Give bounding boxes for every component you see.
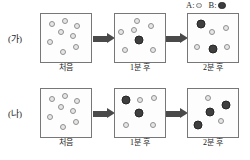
particle-a xyxy=(62,18,68,24)
particle-b xyxy=(197,19,206,28)
particle-a xyxy=(74,23,80,29)
stage-caption: 처음 xyxy=(40,139,92,148)
particle-a xyxy=(224,44,230,50)
particle-a xyxy=(150,47,156,53)
particle-b xyxy=(194,121,203,130)
particle-a xyxy=(62,93,68,99)
open-circle-light-icon xyxy=(196,3,202,9)
particle-a xyxy=(209,29,215,35)
stage-caption: 처음 xyxy=(40,64,92,73)
particle-a xyxy=(134,18,140,24)
stage-ga-t1: 1분 후 xyxy=(114,13,166,73)
particle-a xyxy=(123,122,129,128)
stage-na-t1: 1분 후 xyxy=(114,88,166,148)
particle-a xyxy=(137,97,143,103)
legend-entry-b: B: xyxy=(209,1,226,10)
particle-a xyxy=(205,95,211,101)
legend-label-a: A: xyxy=(186,1,195,10)
container-box xyxy=(114,88,166,138)
stage-na-t0: 처음 xyxy=(40,88,92,148)
stage-caption: 2분 후 xyxy=(187,64,239,73)
particle-a xyxy=(73,44,79,50)
particle-b xyxy=(135,35,144,44)
stage-caption: 1분 후 xyxy=(114,64,166,73)
particle-a xyxy=(60,49,66,55)
stage-ga-t0: 처음 xyxy=(40,13,92,73)
experiment-row-na: (나) 처음 1분 후 2분 후 xyxy=(0,88,250,160)
particle-a xyxy=(122,47,128,53)
stage-na-t2: 2분 후 xyxy=(187,88,239,148)
particle-reaction-diagram: A: B: (가) 처음 1분 후 2분 후 (나) xyxy=(0,0,250,160)
legend: A: B: xyxy=(186,1,226,10)
particle-a xyxy=(70,108,76,114)
particle-a xyxy=(194,44,200,50)
container-box xyxy=(114,13,166,63)
row-label-na: (나) xyxy=(8,110,22,119)
legend-label-b: B: xyxy=(209,1,217,10)
particle-a xyxy=(58,104,64,110)
particle-a xyxy=(70,33,76,39)
particle-a xyxy=(148,23,154,29)
filled-circle-dark-icon xyxy=(218,2,226,10)
particle-a xyxy=(58,29,64,35)
particle-b xyxy=(222,101,231,110)
particle-a xyxy=(151,95,157,101)
particle-a xyxy=(47,39,53,45)
particle-b xyxy=(206,108,215,117)
arrow-right-icon xyxy=(166,33,188,44)
row-label-ga: (가) xyxy=(8,35,22,44)
particle-a xyxy=(47,114,53,120)
particle-a xyxy=(74,98,80,104)
container-box xyxy=(187,88,239,138)
arrow-right-icon xyxy=(93,33,115,44)
particle-a xyxy=(150,122,156,128)
particle-a xyxy=(49,21,55,27)
experiment-row-ga: (가) 처음 1분 후 2분 후 xyxy=(0,13,250,85)
particle-a xyxy=(73,119,79,125)
particle-a xyxy=(223,25,229,31)
container-box xyxy=(187,13,239,63)
particle-a xyxy=(131,27,137,33)
legend-entry-a: A: xyxy=(186,1,202,10)
particle-a xyxy=(118,29,124,35)
particle-b xyxy=(135,109,144,118)
particle-b xyxy=(122,95,131,104)
stage-ga-t2: 2분 후 xyxy=(187,13,239,73)
container-box xyxy=(40,88,92,138)
particle-b xyxy=(209,44,218,53)
particle-a xyxy=(60,124,66,130)
arrow-right-icon xyxy=(166,108,188,119)
arrow-right-icon xyxy=(93,108,115,119)
container-box xyxy=(40,13,92,63)
stage-caption: 1분 후 xyxy=(114,139,166,148)
particle-a xyxy=(49,96,55,102)
particle-a xyxy=(218,118,224,124)
stage-caption: 2분 후 xyxy=(187,139,239,148)
